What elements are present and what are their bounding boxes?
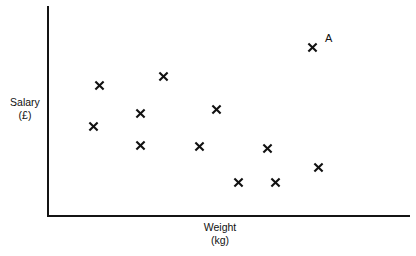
data-point-marker [307,42,318,53]
point-label-a: A [325,33,332,44]
plot-area: A [0,0,416,256]
data-point-marker [194,141,205,152]
x-axis-label-title: Weight [160,221,280,234]
x-axis-label: Weight (kg) [160,221,280,247]
scatter-plot-screenshot: A Salary (£) Weight (kg) [0,0,416,256]
data-point-marker [158,71,169,82]
y-axis-label-title: Salary [4,96,46,109]
data-point-marker [88,121,99,132]
data-point-marker [313,162,324,173]
data-point-marker [94,80,105,91]
y-axis-label: Salary (£) [4,96,46,122]
data-point-marker [270,177,281,188]
data-point-marker [233,177,244,188]
x-axis-label-unit: (kg) [160,234,280,247]
data-point-marker [262,143,273,154]
data-point-marker [135,140,146,151]
data-point-marker [135,108,146,119]
x-axis-line [47,215,410,217]
y-axis-label-unit: (£) [4,109,46,122]
y-axis-line [47,6,49,217]
data-point-marker [211,104,222,115]
